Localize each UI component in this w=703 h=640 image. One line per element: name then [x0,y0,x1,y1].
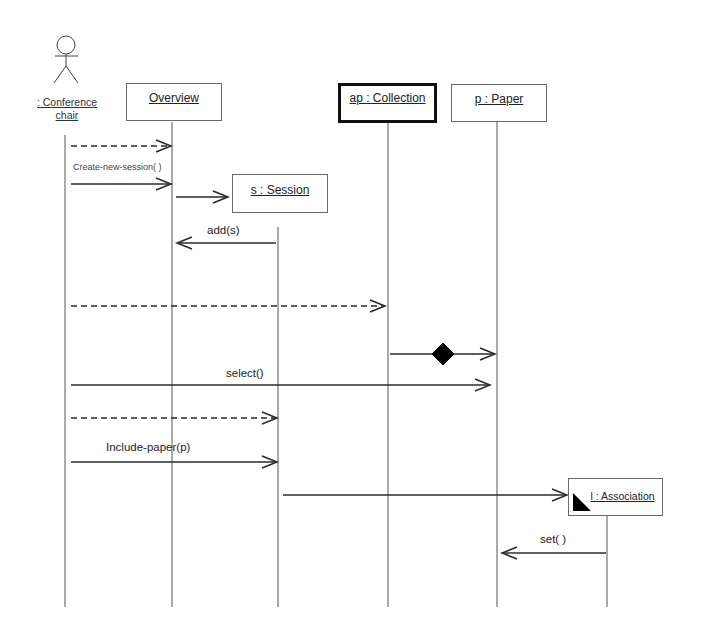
message-label-select: select() [226,368,264,380]
actor-stick-figure-icon [54,36,78,83]
message-label-add: add(s) [207,225,240,237]
object-title-overview: Overview [127,91,221,105]
messages [71,146,606,553]
lifelines [65,122,607,607]
object-session[interactable]: s : Session [232,174,328,213]
actor-name-line1: : Conference [28,96,106,109]
object-paper[interactable]: p : Paper [451,84,547,122]
message-label-create-new-session: Create-new-session( ) [73,163,162,172]
actor-name-line2: chair [28,109,106,122]
object-title-session: s : Session [233,183,327,197]
message-label-set: set( ) [540,534,566,546]
object-association[interactable]: l : Association [568,478,663,516]
message-label-include-paper: Include-paper(p) [106,442,190,454]
object-overview[interactable]: Overview [126,83,222,121]
object-title-association: l : Association [583,490,662,502]
object-title-paper: p : Paper [452,92,546,106]
actor-conference-chair[interactable]: : Conference chair [28,96,106,122]
object-title-collection: ap : Collection [341,91,434,105]
object-collection[interactable]: ap : Collection [338,83,437,123]
aggregation-diamond-icon [432,343,454,365]
